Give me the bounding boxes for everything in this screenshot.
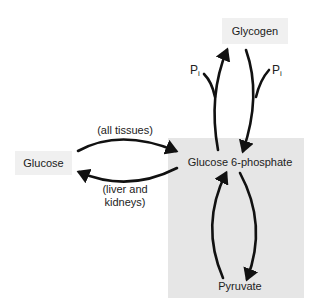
arrow-glucose-to-g6p [78, 140, 176, 152]
pi-branch-left [204, 74, 215, 97]
arrow-g6p-to-glycogen [215, 50, 227, 150]
arrows-layer [0, 0, 315, 308]
arrow-glycogen-to-g6p [243, 50, 253, 151]
arrow-pyruvate-to-g6p [212, 173, 226, 278]
arrow-g6p-to-pyruvate [240, 173, 256, 279]
arrow-g6p-to-glucose [79, 168, 177, 182]
pi-branch-right [256, 70, 269, 97]
